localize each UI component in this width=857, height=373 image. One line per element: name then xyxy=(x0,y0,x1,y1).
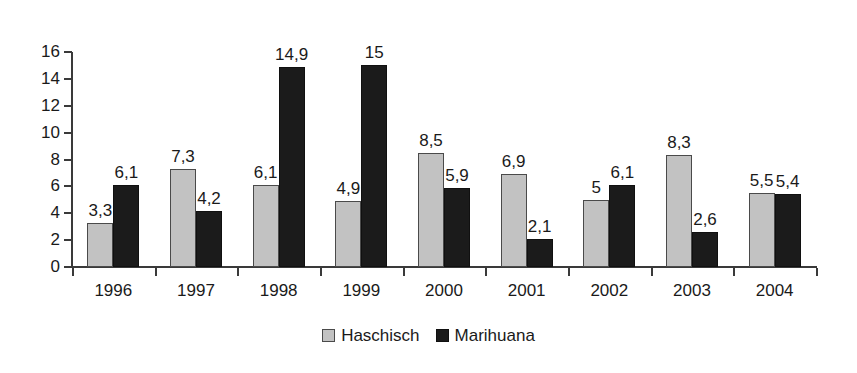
bar-value-label: 2,1 xyxy=(510,218,570,236)
bar-marihuana-1998 xyxy=(279,67,305,267)
bar-marihuana-2002 xyxy=(609,185,635,267)
bar-marihuana-2003 xyxy=(692,232,718,267)
bar-marihuana-1999 xyxy=(361,65,387,267)
bar-value-label: 6,9 xyxy=(484,153,544,171)
bar-marihuana-2000 xyxy=(444,188,470,267)
bar-value-label: 6,1 xyxy=(96,164,156,182)
bar-haschisch-1996 xyxy=(87,223,113,267)
y-tick-mark xyxy=(64,132,72,134)
bar-value-label: 2,6 xyxy=(675,211,735,229)
y-tick-mark xyxy=(64,51,72,53)
bar-value-label: 8,3 xyxy=(649,134,709,152)
x-category-label-1996: 1996 xyxy=(68,281,158,301)
bar-haschisch-1997 xyxy=(170,169,196,267)
x-tick-mark xyxy=(816,268,818,276)
y-tick-mark xyxy=(64,159,72,161)
bar-haschisch-1998 xyxy=(253,185,279,267)
y-tick-label: 6 xyxy=(28,177,60,194)
y-tick-label: 4 xyxy=(28,204,60,221)
bar-value-label: 5,9 xyxy=(427,167,487,185)
y-tick-mark xyxy=(64,78,72,80)
bar-marihuana-2004 xyxy=(775,194,801,267)
x-tick-mark xyxy=(237,268,239,276)
x-tick-mark xyxy=(320,268,322,276)
legend-label: Haschisch xyxy=(341,326,419,345)
x-tick-mark xyxy=(651,268,653,276)
x-tick-mark xyxy=(72,268,74,276)
y-tick-label: 2 xyxy=(28,231,60,248)
bar-haschisch-1999 xyxy=(335,201,361,267)
y-tick-mark xyxy=(64,239,72,241)
bar-value-label: 4,2 xyxy=(179,190,239,208)
x-category-label-2004: 2004 xyxy=(730,281,820,301)
bar-value-label: 8,5 xyxy=(401,132,461,150)
x-category-label-2000: 2000 xyxy=(399,281,489,301)
x-category-label-1998: 1998 xyxy=(234,281,324,301)
y-tick-mark xyxy=(64,105,72,107)
legend-swatch-icon xyxy=(322,329,335,342)
legend-item-haschisch[interactable]: Haschisch xyxy=(322,326,419,345)
bar-value-label: 6,1 xyxy=(592,164,652,182)
x-category-label-2001: 2001 xyxy=(482,281,572,301)
bar-chart: 0246810121416 3,36,17,34,26,114,94,9158,… xyxy=(0,0,857,373)
y-tick-label: 0 xyxy=(28,258,60,275)
x-tick-mark xyxy=(155,268,157,276)
chart-legend: HaschischMarihuana xyxy=(0,326,857,345)
x-tick-mark xyxy=(733,268,735,276)
x-tick-mark xyxy=(568,268,570,276)
y-tick-label: 12 xyxy=(28,97,60,114)
legend-label: Marihuana xyxy=(455,326,535,345)
y-tick-label: 16 xyxy=(28,43,60,60)
bar-value-label: 5,4 xyxy=(758,173,818,191)
y-tick-label: 8 xyxy=(28,151,60,168)
bar-haschisch-2004 xyxy=(749,193,775,267)
x-category-label-1997: 1997 xyxy=(151,281,241,301)
bar-marihuana-2001 xyxy=(527,239,553,267)
legend-swatch-icon xyxy=(436,329,449,342)
bar-value-label: 7,3 xyxy=(153,148,213,166)
bar-haschisch-2002 xyxy=(583,200,609,267)
x-category-label-2002: 2002 xyxy=(564,281,654,301)
plot-area: 3,36,17,34,26,114,94,9158,55,96,92,156,1… xyxy=(72,52,816,267)
bar-marihuana-1997 xyxy=(196,211,222,267)
y-tick-mark xyxy=(64,185,72,187)
legend-item-marihuana[interactable]: Marihuana xyxy=(436,326,535,345)
x-category-label-1999: 1999 xyxy=(316,281,406,301)
bar-value-label: 15 xyxy=(344,44,404,62)
y-tick-label: 14 xyxy=(28,70,60,87)
x-tick-mark xyxy=(403,268,405,276)
bar-marihuana-1996 xyxy=(113,185,139,267)
bar-value-label: 14,9 xyxy=(262,46,322,64)
x-category-label-2003: 2003 xyxy=(647,281,737,301)
y-tick-label: 10 xyxy=(28,124,60,141)
x-tick-mark xyxy=(485,268,487,276)
